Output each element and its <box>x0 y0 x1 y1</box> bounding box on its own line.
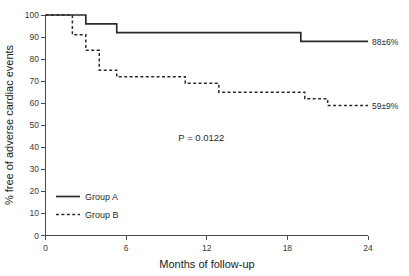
svg-text:90: 90 <box>30 32 40 42</box>
svg-text:12: 12 <box>202 243 212 253</box>
chart-canvas: 0102030405060708090100 06121824 % free o… <box>0 0 409 276</box>
svg-text:30: 30 <box>30 164 40 174</box>
x-axis-ticks: 06121824 <box>43 236 373 254</box>
p-value-annotation: P = 0.0122 <box>178 132 224 143</box>
series-group-a-line <box>46 15 369 41</box>
group-b-endpoint-label: 59±9% <box>372 101 399 111</box>
svg-text:0: 0 <box>43 243 48 253</box>
x-axis-title: Months of follow-up <box>159 258 254 270</box>
group-a-endpoint-label: 88±6% <box>372 37 399 47</box>
legend-label-group-a: Group A <box>85 192 118 202</box>
y-axis-title: % free of adverse cardiac events <box>3 44 15 205</box>
svg-text:100: 100 <box>25 10 39 20</box>
svg-text:18: 18 <box>283 243 293 253</box>
svg-text:80: 80 <box>30 54 40 64</box>
chart-legend: Group A Group B <box>56 192 119 220</box>
legend-label-group-b: Group B <box>85 210 119 220</box>
kaplan-meier-chart: 0102030405060708090100 06121824 % free o… <box>0 0 409 276</box>
svg-text:6: 6 <box>124 243 129 253</box>
y-axis-ticks: 0102030405060708090100 <box>25 10 46 241</box>
series-group-b-line <box>46 15 369 105</box>
svg-text:10: 10 <box>30 208 40 218</box>
svg-text:20: 20 <box>30 186 40 196</box>
svg-text:70: 70 <box>30 76 40 86</box>
svg-text:24: 24 <box>363 243 373 253</box>
svg-text:50: 50 <box>30 120 40 130</box>
svg-text:40: 40 <box>30 142 40 152</box>
svg-text:0: 0 <box>34 231 39 241</box>
svg-text:60: 60 <box>30 98 40 108</box>
